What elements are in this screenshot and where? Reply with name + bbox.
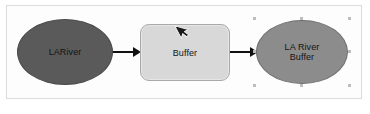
connector-input-to-tool[interactable] xyxy=(112,47,142,58)
selection-handle-nw[interactable] xyxy=(253,17,256,20)
selection-handle-sw[interactable] xyxy=(253,84,256,87)
node-label: Buffer xyxy=(173,48,197,58)
node-label-line-1: LA River xyxy=(285,42,320,52)
model-diagram-canvas[interactable]: LARiver Buffer LA River Buffer xyxy=(0,0,370,114)
shape-layer: LARiver Buffer LA River Buffer xyxy=(0,0,370,114)
selection-handle-ne[interactable] xyxy=(348,17,351,20)
connector-line xyxy=(112,51,135,53)
selection-handle-n[interactable] xyxy=(300,17,303,20)
selection-handle-w[interactable] xyxy=(253,50,256,53)
node-output-data[interactable]: LA River Buffer xyxy=(256,20,348,84)
mouse-pointer-icon xyxy=(173,22,191,41)
selection-handle-se[interactable] xyxy=(348,84,351,87)
node-label-line-2: Buffer xyxy=(290,52,314,62)
selection-handle-s[interactable] xyxy=(300,84,303,87)
node-label: LARiver xyxy=(49,47,82,58)
selection-handle-e[interactable] xyxy=(348,50,351,53)
connector-line xyxy=(229,51,252,53)
node-label: LA River Buffer xyxy=(285,42,320,63)
node-input-data[interactable]: LARiver xyxy=(17,19,113,85)
